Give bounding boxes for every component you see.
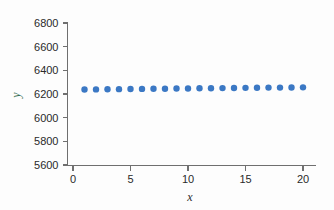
data-point [231,85,237,91]
data-point [196,85,202,91]
y-tick-label: 6200 [34,88,58,100]
chart-background [0,0,334,210]
x-tick-label: 15 [239,173,251,185]
data-point [127,86,133,92]
x-tick-label: 5 [127,173,133,185]
x-tick-label: 20 [297,173,309,185]
x-tick-label: 0 [70,173,76,185]
data-point [162,85,168,91]
data-point [173,85,179,91]
data-point [93,86,99,92]
data-point [81,86,87,92]
data-point [242,85,248,91]
data-point [300,84,306,90]
x-tick-label: 10 [182,173,194,185]
data-point [116,86,122,92]
scatter-chart-figure: 5600580060006200640066006800 05101520 y … [0,0,334,210]
data-point [150,86,156,92]
x-axis-title: x [186,190,193,204]
y-tick-label: 6600 [34,41,58,53]
data-point [219,85,225,91]
data-point [208,85,214,91]
data-point [254,85,260,91]
data-point [139,86,145,92]
y-tick-label: 5600 [34,159,58,171]
y-tick-label: 5800 [34,135,58,147]
data-point [104,86,110,92]
y-tick-label: 6000 [34,112,58,124]
data-point [265,84,271,90]
data-point [185,85,191,91]
data-point [277,84,283,90]
y-tick-label: 6400 [34,64,58,76]
chart-canvas: 5600580060006200640066006800 05101520 y … [0,0,334,210]
y-axis-title: y [9,92,23,99]
data-point [288,84,294,90]
y-tick-label: 6800 [34,17,58,29]
